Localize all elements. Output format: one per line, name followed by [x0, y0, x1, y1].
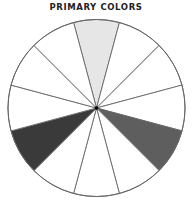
color-wheel	[0, 0, 192, 212]
wheel-center-dot	[95, 106, 99, 110]
